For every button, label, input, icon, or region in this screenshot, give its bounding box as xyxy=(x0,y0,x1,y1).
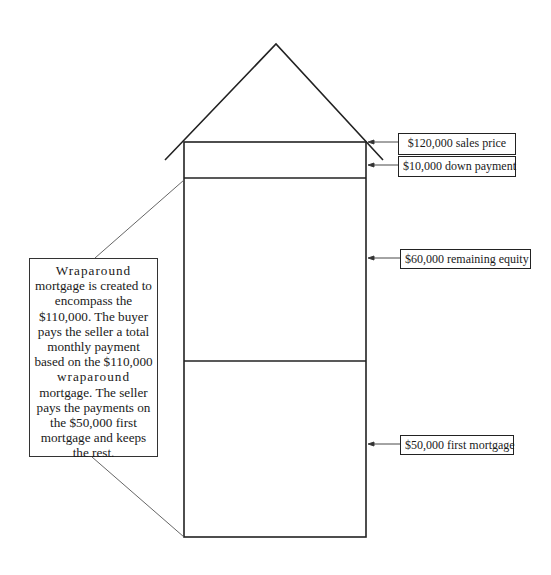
down-payment-label: $10,000 down payment xyxy=(398,156,516,177)
callout-line: based on the $110,000 xyxy=(33,354,154,369)
callout-line: $110,000. The buyer xyxy=(33,309,154,324)
sales-price-label: $120,000 sales price xyxy=(398,133,516,155)
callout-bottom-connector xyxy=(92,457,184,537)
house-body xyxy=(184,142,366,537)
label-arrows xyxy=(368,140,400,446)
callout-line: the $50,000 first xyxy=(33,415,154,430)
first-mortgage-label: $50,000 first mortgage xyxy=(400,435,514,455)
remaining-equity-label: $60,000 remaining equity xyxy=(400,249,531,269)
callout-line: mortgage. The seller xyxy=(33,385,154,400)
callout-line: pays the payments on xyxy=(33,400,154,415)
callout-top-connector xyxy=(95,180,184,258)
callout-line: pays the seller a total xyxy=(33,324,154,339)
callout-line: mortgage is created to xyxy=(33,278,154,293)
wraparound-callout: Wraparound mortgage is created to encomp… xyxy=(29,258,158,457)
callout-line: Wraparound xyxy=(33,263,154,278)
callout-line: monthly payment xyxy=(33,339,154,354)
callout-line: mortgage and keeps xyxy=(33,430,154,445)
callout-line: encompass the xyxy=(33,293,154,308)
callout-line: the rest. xyxy=(33,445,154,460)
callout-line: wraparound xyxy=(33,369,154,384)
